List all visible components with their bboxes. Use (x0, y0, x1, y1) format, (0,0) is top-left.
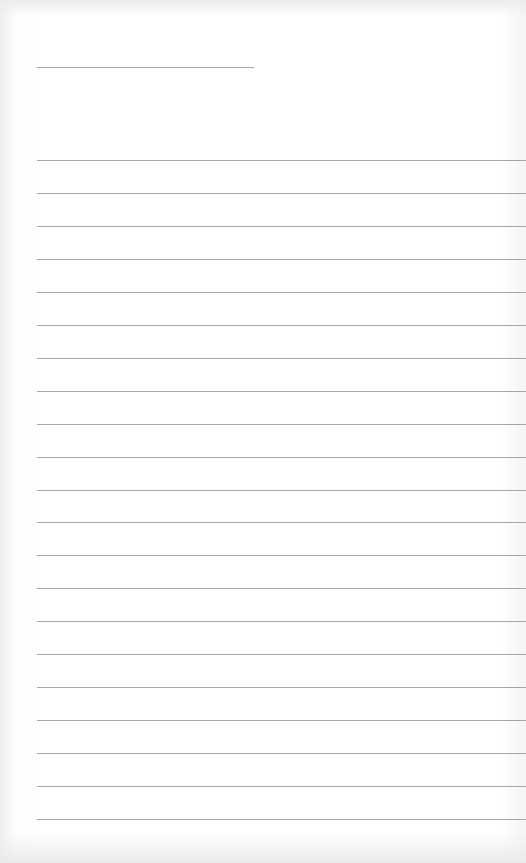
ruled-line (37, 226, 526, 227)
lined-paper (0, 0, 526, 863)
name-line (37, 67, 254, 68)
ruled-line (37, 259, 526, 260)
ruled-line (37, 621, 526, 622)
ruled-line (37, 424, 526, 425)
ruled-line (37, 753, 526, 754)
ruled-line (37, 687, 526, 688)
ruled-line (37, 292, 526, 293)
ruled-line (37, 193, 526, 194)
bottom-edge-shadow (0, 833, 526, 863)
ruled-line (37, 555, 526, 556)
ruled-line (37, 522, 526, 523)
ruled-line (37, 819, 526, 820)
ruled-line (37, 720, 526, 721)
ruled-line (37, 325, 526, 326)
ruled-line (37, 490, 526, 491)
ruled-line (37, 160, 526, 161)
ruled-line (37, 457, 526, 458)
ruled-line (37, 358, 526, 359)
top-edge-shadow (0, 0, 526, 16)
ruled-line (37, 786, 526, 787)
ruled-line (37, 588, 526, 589)
ruled-line (37, 654, 526, 655)
ruled-line (37, 391, 526, 392)
